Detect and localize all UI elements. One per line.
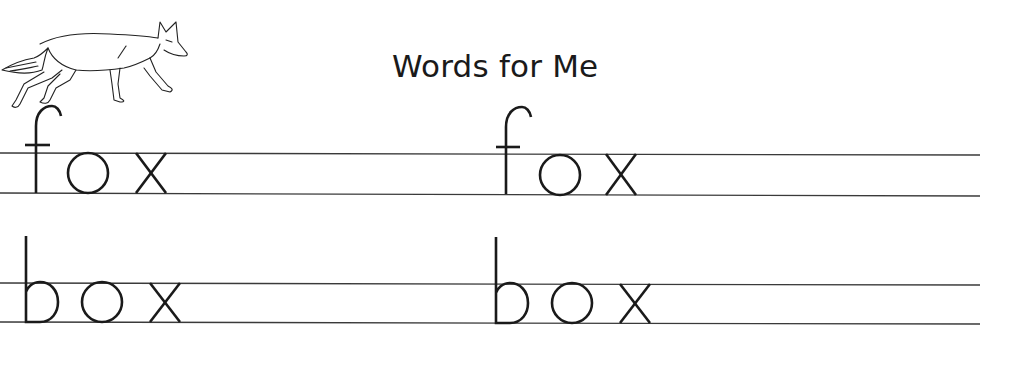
handwriting-guide-lines [0, 0, 1014, 380]
fox-row-midline [0, 153, 980, 155]
box-row-midline [0, 283, 980, 285]
fox-row-baseline [0, 193, 980, 196]
box-row-baseline [0, 322, 980, 324]
